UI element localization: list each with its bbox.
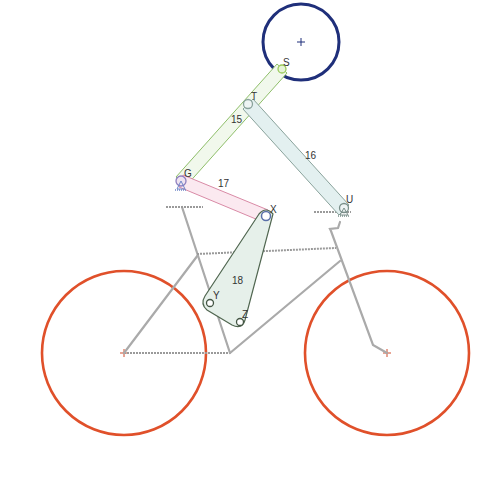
- mechanism-canvas: S T G U X Y Z 15 16 17 18: [0, 0, 501, 482]
- head-center-marker: [297, 38, 305, 46]
- seat-stay: [124, 255, 198, 353]
- link-label-16: 16: [305, 150, 317, 161]
- link-label-15: 15: [231, 114, 243, 125]
- joint-label-u: U: [346, 194, 353, 205]
- joint-label-z: Z: [242, 309, 248, 320]
- top-tube: [197, 248, 336, 254]
- link-18[interactable]: [203, 210, 273, 327]
- joint-label-y: Y: [213, 290, 220, 301]
- joint-label-x: X: [270, 204, 277, 215]
- link-label-17: 17: [218, 178, 230, 189]
- link-label-18: 18: [232, 275, 244, 286]
- joint-label-g: G: [184, 168, 192, 179]
- link-16[interactable]: [243, 99, 349, 215]
- joint-label-t: T: [251, 91, 257, 102]
- joint-label-s: S: [283, 57, 290, 68]
